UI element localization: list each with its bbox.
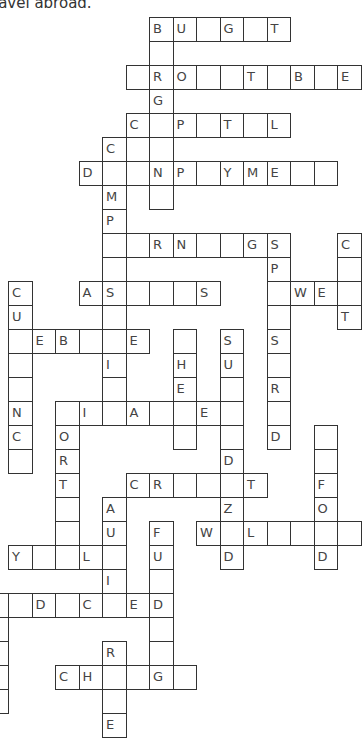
crossword-cell[interactable]	[267, 521, 292, 546]
crossword-cell[interactable]	[126, 281, 151, 306]
crossword-cell[interactable]: U	[8, 305, 33, 330]
crossword-cell[interactable]: T	[243, 473, 268, 498]
crossword-cell[interactable]: E	[314, 281, 339, 306]
crossword-cell[interactable]	[220, 377, 245, 402]
crossword-cell[interactable]	[267, 401, 292, 426]
crossword-cell[interactable]	[32, 545, 57, 570]
crossword-cell[interactable]: Z	[220, 497, 245, 522]
crossword-cell[interactable]	[126, 161, 151, 186]
crossword-cell[interactable]: M	[102, 185, 127, 210]
crossword-cell[interactable]	[102, 161, 127, 186]
crossword-cell[interactable]: A	[126, 401, 151, 426]
crossword-cell[interactable]: L	[243, 521, 268, 546]
crossword-cell[interactable]: W	[196, 521, 221, 546]
crossword-cell[interactable]: O	[173, 65, 198, 90]
crossword-cell[interactable]	[243, 113, 268, 138]
crossword-cell[interactable]: G	[149, 665, 174, 690]
crossword-cell[interactable]	[0, 617, 9, 642]
crossword-cell[interactable]: E	[102, 713, 127, 738]
crossword-cell[interactable]	[173, 473, 198, 498]
crossword-cell[interactable]: S	[220, 329, 245, 354]
crossword-cell[interactable]	[267, 281, 292, 306]
crossword-cell[interactable]	[8, 449, 33, 474]
crossword-cell[interactable]	[55, 521, 80, 546]
crossword-cell[interactable]	[126, 65, 151, 90]
crossword-cell[interactable]: P	[173, 113, 198, 138]
crossword-cell[interactable]: U	[220, 353, 245, 378]
crossword-cell[interactable]: D	[220, 545, 245, 570]
crossword-cell[interactable]	[102, 545, 127, 570]
crossword-cell[interactable]: M	[243, 161, 268, 186]
crossword-cell[interactable]: E	[267, 161, 292, 186]
crossword-cell[interactable]	[102, 401, 127, 426]
crossword-cell[interactable]	[267, 65, 292, 90]
crossword-cell[interactable]: I	[102, 353, 127, 378]
crossword-cell[interactable]: E	[126, 329, 151, 354]
crossword-cell[interactable]	[149, 401, 174, 426]
crossword-cell[interactable]	[337, 521, 362, 546]
crossword-cell[interactable]: I	[79, 401, 104, 426]
crossword-cell[interactable]: U	[173, 17, 198, 42]
crossword-cell[interactable]	[173, 425, 198, 450]
crossword-cell[interactable]: D	[149, 593, 174, 618]
crossword-cell[interactable]: D	[267, 425, 292, 450]
crossword-cell[interactable]: P	[173, 161, 198, 186]
crossword-cell[interactable]: D	[79, 161, 104, 186]
crossword-cell[interactable]	[220, 473, 245, 498]
crossword-cell[interactable]: I	[102, 569, 127, 594]
crossword-cell[interactable]	[149, 185, 174, 210]
crossword-cell[interactable]	[196, 65, 221, 90]
crossword-cell[interactable]	[0, 665, 9, 690]
crossword-cell[interactable]	[0, 641, 9, 666]
crossword-cell[interactable]	[337, 257, 362, 282]
crossword-cell[interactable]	[267, 353, 292, 378]
crossword-cell[interactable]: T	[337, 305, 362, 330]
crossword-cell[interactable]	[314, 161, 339, 186]
crossword-cell[interactable]: A	[79, 281, 104, 306]
crossword-cell[interactable]: A	[102, 497, 127, 522]
crossword-cell[interactable]	[220, 65, 245, 90]
crossword-cell[interactable]: T	[55, 473, 80, 498]
crossword-cell[interactable]: D	[220, 449, 245, 474]
crossword-cell[interactable]: D	[32, 593, 57, 618]
crossword-cell[interactable]: N	[8, 401, 33, 426]
crossword-cell[interactable]: C	[55, 665, 80, 690]
crossword-cell[interactable]: U	[102, 521, 127, 546]
crossword-cell[interactable]: E	[196, 401, 221, 426]
crossword-cell[interactable]: P	[267, 257, 292, 282]
crossword-cell[interactable]	[8, 353, 33, 378]
crossword-cell[interactable]	[8, 593, 33, 618]
crossword-cell[interactable]	[196, 233, 221, 258]
crossword-cell[interactable]	[173, 281, 198, 306]
crossword-cell[interactable]: Y	[220, 161, 245, 186]
crossword-cell[interactable]: R	[102, 641, 127, 666]
crossword-cell[interactable]	[55, 545, 80, 570]
crossword-cell[interactable]	[149, 137, 174, 162]
crossword-cell[interactable]: T	[267, 17, 292, 42]
crossword-cell[interactable]	[149, 113, 174, 138]
crossword-cell[interactable]	[149, 41, 174, 66]
crossword-cell[interactable]: S	[196, 281, 221, 306]
crossword-cell[interactable]	[314, 521, 339, 546]
crossword-cell[interactable]	[55, 593, 80, 618]
crossword-cell[interactable]: C	[102, 137, 127, 162]
crossword-cell[interactable]: Y	[8, 545, 33, 570]
crossword-cell[interactable]: L	[79, 545, 104, 570]
crossword-cell[interactable]	[102, 233, 127, 258]
crossword-cell[interactable]: E	[173, 377, 198, 402]
crossword-cell[interactable]: R	[149, 473, 174, 498]
crossword-cell[interactable]	[149, 569, 174, 594]
crossword-cell[interactable]	[102, 593, 127, 618]
crossword-cell[interactable]: E	[126, 593, 151, 618]
crossword-cell[interactable]	[149, 281, 174, 306]
crossword-cell[interactable]	[102, 665, 127, 690]
crossword-cell[interactable]	[149, 617, 174, 642]
crossword-cell[interactable]: G	[149, 89, 174, 114]
crossword-cell[interactable]: P	[102, 209, 127, 234]
crossword-cell[interactable]	[126, 665, 151, 690]
crossword-cell[interactable]	[290, 521, 315, 546]
crossword-cell[interactable]	[8, 377, 33, 402]
crossword-cell[interactable]	[196, 113, 221, 138]
crossword-cell[interactable]	[79, 329, 104, 354]
crossword-cell[interactable]	[243, 17, 268, 42]
